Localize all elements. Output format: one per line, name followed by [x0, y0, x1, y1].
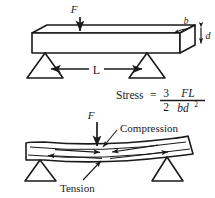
- depth-label: d: [206, 30, 212, 41]
- beam-stress-figure: F b d L Stress = 3 2: [0, 0, 215, 198]
- span-label: L: [93, 63, 100, 77]
- figure-canvas: F b d L Stress = 3 2: [0, 0, 215, 198]
- span-dimension-group: L: [51, 63, 142, 77]
- top-beam-group: [32, 25, 195, 53]
- beam-front-face: [32, 33, 180, 53]
- tension-label: Tension: [60, 182, 95, 194]
- fraction-numerator: FL: [180, 87, 194, 99]
- fraction-denominator: bd: [177, 102, 189, 114]
- coefficient-numerator: 3: [163, 87, 169, 99]
- compression-label: Compression: [120, 122, 179, 134]
- stress-formula-name: Stress: [116, 89, 144, 101]
- tension-annotation-group: Tension: [60, 161, 101, 194]
- bottom-support-left: [25, 160, 56, 181]
- coefficient-denominator: 2: [163, 101, 169, 113]
- top-force-label: F: [70, 3, 78, 15]
- top-support-left: [27, 53, 63, 78]
- stress-formula-equals: =: [150, 89, 157, 101]
- tension-leader-line: [83, 161, 101, 180]
- bottom-force-arrow-group: F: [87, 109, 97, 146]
- beam-top-face: [32, 25, 195, 33]
- fraction-denominator-exponent: 2: [194, 100, 198, 109]
- bottom-support-right: [152, 157, 183, 181]
- depth-dimension-group: d: [201, 28, 212, 44]
- top-support-right: [129, 53, 165, 78]
- breadth-label: b: [184, 16, 189, 26]
- bottom-force-label: F: [87, 109, 95, 121]
- stress-formula-group: Stress = 3 2 FL bd 2: [116, 87, 205, 114]
